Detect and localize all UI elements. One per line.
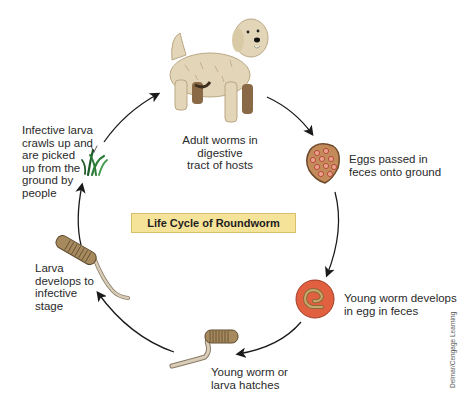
roundworm-life-cycle-diagram: Life Cycle of Roundworm Adult worms in d… xyxy=(0,0,469,400)
image-credit: Delmar/Cengage Learning xyxy=(449,312,456,388)
diagram-artwork xyxy=(0,0,469,400)
arrow-hatch-to-larva xyxy=(98,293,174,352)
hatching-worm-icon xyxy=(172,330,238,366)
label-picked-up-stage: Infective larva crawls up and are picked… xyxy=(22,124,93,200)
diagram-title: Life Cycle of Roundworm xyxy=(131,213,296,233)
label-hatch-stage: Young worm or larva hatches xyxy=(211,366,288,391)
egg-with-worm-icon xyxy=(296,280,334,318)
label-eggs-stage: Eggs passed in feces onto ground xyxy=(349,153,441,178)
arrow-grass-to-dog xyxy=(104,94,158,142)
arrow-dog-to-eggs xyxy=(267,97,312,134)
label-adult-stage: Adult worms in digestive tract of hosts xyxy=(160,134,280,172)
arrow-egg-to-hatch xyxy=(238,322,301,354)
label-infective-stage: Larva develops to infective stage xyxy=(35,262,94,312)
dog-icon xyxy=(170,19,268,122)
label-develop-stage: Young worm develops in egg in feces xyxy=(344,292,457,317)
arrow-eggs-to-egg xyxy=(327,192,339,275)
feces-with-eggs-icon xyxy=(307,144,340,183)
